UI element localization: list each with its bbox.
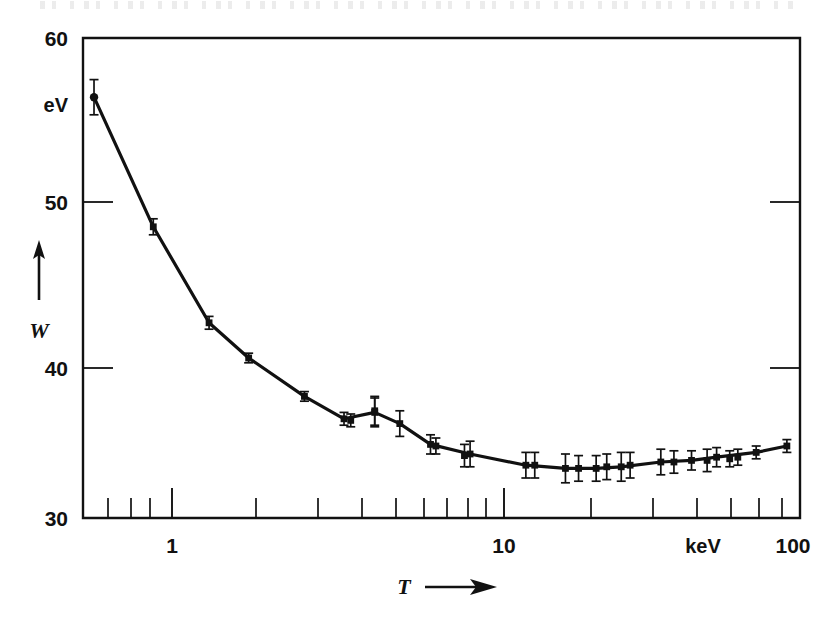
point-marker xyxy=(150,223,157,230)
data-curve xyxy=(94,97,787,468)
y-axis-up-arrow xyxy=(33,240,45,300)
data-point xyxy=(626,452,635,478)
data-point xyxy=(733,449,742,465)
point-marker xyxy=(618,463,625,470)
point-marker xyxy=(657,459,664,466)
point-marker xyxy=(522,462,529,469)
x-axis-symbol: T xyxy=(397,574,412,599)
data-point xyxy=(561,454,570,483)
point-marker xyxy=(726,455,733,462)
point-marker xyxy=(245,355,252,362)
x-tick-label-100: 100 xyxy=(775,534,810,557)
point-marker xyxy=(593,465,600,472)
data-point xyxy=(687,451,696,470)
data-point xyxy=(752,446,761,459)
x-unit-label: keV xyxy=(685,535,721,557)
x-axis-annotations: T xyxy=(397,574,497,599)
y-axis-ticks-right xyxy=(770,202,800,368)
data-point xyxy=(370,396,379,425)
data-point xyxy=(592,456,601,482)
data-point xyxy=(669,451,678,473)
data-series-layer xyxy=(90,80,792,483)
point-marker xyxy=(90,93,98,101)
point-marker xyxy=(347,417,354,424)
y-axis-annotations: eV W xyxy=(29,94,68,343)
point-marker xyxy=(531,462,538,469)
x-tick-label-10: 10 xyxy=(492,534,515,557)
data-point xyxy=(656,449,665,475)
point-marker xyxy=(562,465,569,472)
point-marker xyxy=(432,443,439,450)
x-axis-minor-ticks xyxy=(108,498,782,518)
extra-series-points xyxy=(346,396,742,481)
data-point xyxy=(530,452,539,478)
data-point xyxy=(395,411,404,437)
point-marker xyxy=(461,452,468,459)
y-tick-label-30: 30 xyxy=(45,507,68,530)
x-axis-right-arrow xyxy=(425,579,497,595)
point-marker xyxy=(671,459,678,466)
data-point xyxy=(521,452,530,478)
data-point xyxy=(617,452,626,481)
x-tick-label-1: 1 xyxy=(166,534,178,557)
y-tick-label-40: 40 xyxy=(45,357,68,380)
figure-container: 60 50 40 30 eV W xyxy=(0,0,835,623)
data-point xyxy=(90,80,99,115)
y-tick-label-50: 50 xyxy=(45,191,68,214)
w-vs-t-chart: 60 50 40 30 eV W xyxy=(0,0,835,623)
data-point xyxy=(244,353,253,363)
data-point xyxy=(300,392,309,402)
point-marker xyxy=(575,465,582,472)
data-point xyxy=(460,444,469,466)
y-tick-label-60: 60 xyxy=(45,27,68,50)
data-point xyxy=(574,456,583,482)
point-marker xyxy=(753,449,760,456)
point-marker xyxy=(713,454,720,461)
data-point xyxy=(431,438,440,454)
data-point xyxy=(782,440,791,453)
point-marker xyxy=(603,463,610,470)
point-marker xyxy=(206,319,213,326)
point-marker xyxy=(396,420,403,427)
point-marker xyxy=(371,407,378,414)
x-axis-tick-labels: 1 10 100 keV xyxy=(166,534,810,557)
data-point xyxy=(712,448,721,467)
point-marker xyxy=(301,393,308,400)
y-axis-ticks-left xyxy=(83,202,113,368)
point-marker xyxy=(341,415,348,422)
data-point xyxy=(725,451,734,467)
point-marker xyxy=(704,457,711,464)
data-point xyxy=(602,454,611,480)
point-marker xyxy=(627,462,634,469)
y-unit-label: eV xyxy=(44,94,69,116)
data-point xyxy=(703,449,712,471)
point-marker xyxy=(734,454,741,461)
point-marker xyxy=(783,443,790,450)
point-marker xyxy=(688,457,695,464)
y-axis-symbol: W xyxy=(29,318,50,343)
main-series-points xyxy=(90,80,792,483)
